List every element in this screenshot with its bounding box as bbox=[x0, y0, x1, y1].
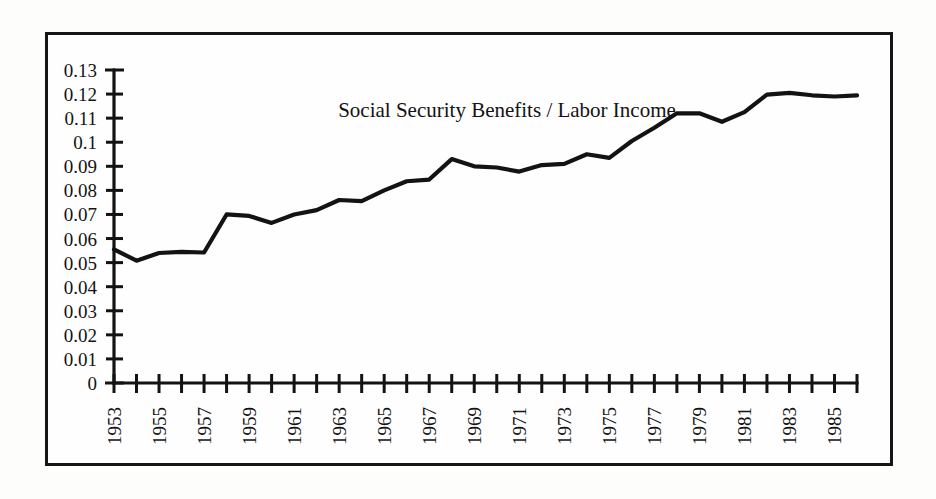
y-tick-label: 0.04 bbox=[64, 277, 98, 298]
y-tick-label: 0.02 bbox=[64, 325, 97, 346]
y-tick-label: 0.01 bbox=[64, 349, 97, 370]
chart-plot-area: 0.130.120.110.10.090.080.070.060.050.040… bbox=[0, 0, 936, 499]
y-tick-label: 0.03 bbox=[64, 301, 97, 322]
x-tick-label: 1961 bbox=[284, 407, 305, 445]
x-tick-label: 1967 bbox=[419, 407, 440, 445]
y-tick-label: 0 bbox=[88, 373, 98, 394]
chart-figure: 0.130.120.110.10.090.080.070.060.050.040… bbox=[0, 0, 936, 499]
x-tick-label: 1955 bbox=[149, 407, 170, 445]
x-tick-label: 1959 bbox=[239, 407, 260, 445]
x-tick-label: 1965 bbox=[374, 407, 395, 445]
x-tick-label: 1963 bbox=[329, 407, 350, 445]
x-tick-label: 1971 bbox=[509, 407, 530, 445]
chart-title: Social Security Benefits / Labor Income bbox=[338, 98, 676, 122]
y-tick-label: 0.08 bbox=[64, 180, 97, 201]
y-tick-label: 0.05 bbox=[64, 253, 97, 274]
x-tick-label: 1985 bbox=[824, 407, 845, 445]
x-axis bbox=[114, 374, 857, 393]
x-tick-label: 1953 bbox=[104, 407, 125, 445]
y-tick-label: 0.07 bbox=[64, 204, 97, 225]
y-tick-label: 0.11 bbox=[64, 108, 97, 129]
x-tick-label: 1983 bbox=[779, 407, 800, 445]
y-tick-label: 0.13 bbox=[64, 60, 97, 81]
x-tick-label: 1979 bbox=[689, 407, 710, 445]
y-axis-tick-labels: 0.130.120.110.10.090.080.070.060.050.040… bbox=[64, 60, 98, 394]
y-tick-label: 0.09 bbox=[64, 156, 97, 177]
x-tick-label: 1975 bbox=[599, 407, 620, 445]
x-tick-label: 1977 bbox=[644, 407, 665, 445]
x-tick-label: 1973 bbox=[554, 407, 575, 445]
x-tick-label: 1969 bbox=[464, 407, 485, 445]
y-tick-label: 0.1 bbox=[73, 132, 97, 153]
x-tick-label: 1957 bbox=[194, 407, 215, 445]
x-axis-tick-labels: 1953195519571959196119631965196719691971… bbox=[104, 407, 845, 445]
y-axis bbox=[105, 70, 124, 383]
x-tick-label: 1981 bbox=[734, 407, 755, 445]
y-tick-label: 0.12 bbox=[64, 84, 97, 105]
y-tick-label: 0.06 bbox=[64, 229, 97, 250]
